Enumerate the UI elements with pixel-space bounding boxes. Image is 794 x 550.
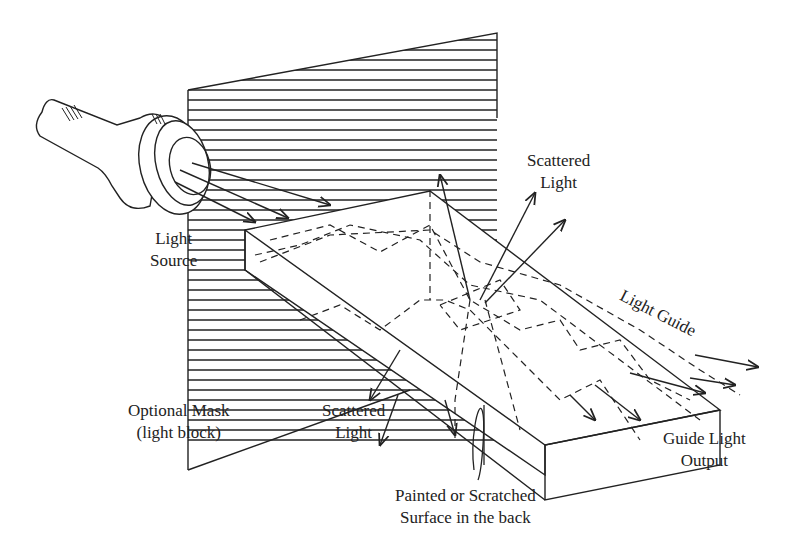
- label-line: Source: [150, 250, 197, 272]
- label-line: Light: [527, 172, 590, 194]
- label-light-source: Light Source: [150, 228, 197, 272]
- label-line: Painted or Scratched: [395, 485, 536, 507]
- label-scattered-light-top: Scattered Light: [527, 150, 590, 194]
- label-painted-surface: Painted or Scratched Surface in the back: [395, 485, 536, 529]
- label-line: (light block): [128, 422, 230, 444]
- flashlight: [36, 100, 217, 222]
- label-line: Scattered: [527, 150, 590, 172]
- label-line: Guide Light: [663, 428, 746, 450]
- label-scattered-light-bottom: Scattered Light: [322, 400, 385, 444]
- label-line: Scattered: [322, 400, 385, 422]
- label-line: Optional Mask: [128, 400, 230, 422]
- label-line: Surface in the back: [395, 507, 536, 529]
- label-guide-light-output: Guide Light Output: [663, 428, 746, 472]
- label-line: Output: [663, 450, 746, 472]
- label-optional-mask: Optional Mask (light block): [128, 400, 230, 444]
- label-line: Light: [150, 228, 197, 250]
- label-line: Light: [322, 422, 385, 444]
